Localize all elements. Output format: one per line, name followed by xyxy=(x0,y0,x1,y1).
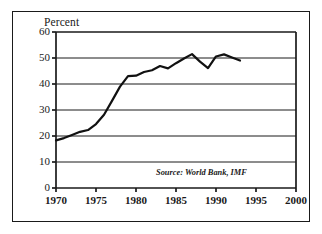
horizontal-gridlines xyxy=(56,58,296,162)
data-series-line xyxy=(56,54,240,140)
y-tick-label-60: 60 xyxy=(20,25,50,37)
y-tick-label-20: 20 xyxy=(20,129,50,141)
figure-container: Percent 0102030405060 197019751980198519… xyxy=(0,0,322,234)
y-tick-label-50: 50 xyxy=(20,51,50,63)
y-tick-label-0: 0 xyxy=(20,181,50,193)
x-tick-label-2000: 2000 xyxy=(271,194,321,206)
y-tick-label-30: 30 xyxy=(20,103,50,115)
source-note: Source: World Bank, IMF xyxy=(156,168,247,177)
y-tick-label-10: 10 xyxy=(20,155,50,167)
y-tick-label-40: 40 xyxy=(20,77,50,89)
